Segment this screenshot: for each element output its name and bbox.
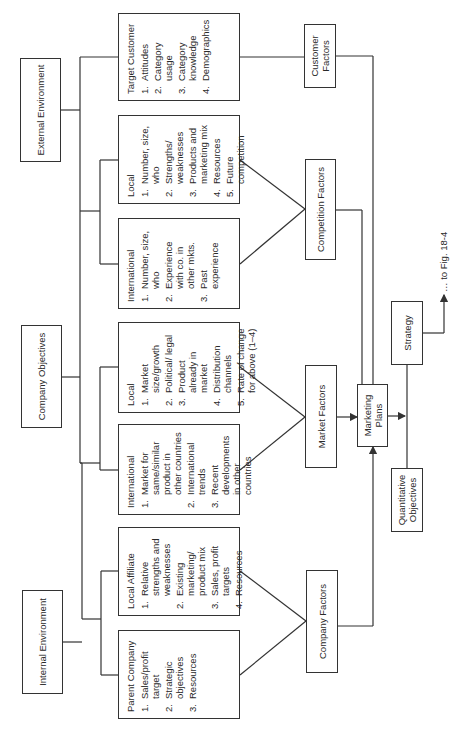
competition-international-box: International 1.Number, size, who 2.Expe… bbox=[118, 218, 240, 309]
market-international-box: International 1.Market for same/similar … bbox=[118, 424, 240, 515]
strategy-box: Strategy bbox=[391, 301, 423, 365]
market-factors-box: Market Factors bbox=[305, 365, 337, 468]
list-item: 1.Sales/profit target bbox=[139, 636, 161, 712]
list-item: 3.Category knowledge bbox=[176, 19, 198, 94]
company-objectives-box: Company Objectives bbox=[21, 325, 62, 428]
diagram-canvas: External Environment Company Objectives … bbox=[0, 0, 466, 753]
competition-local-title: Local bbox=[125, 121, 136, 197]
customer-factors-box: Customer Factors bbox=[304, 24, 336, 88]
competition-factors-label: Competition Factors bbox=[315, 167, 326, 252]
list-item: 1.Market size/growth bbox=[139, 328, 161, 406]
market-international-title: International bbox=[125, 430, 136, 508]
parent-company-title: Parent Company bbox=[125, 636, 136, 712]
list-item: 1.Number, size, who bbox=[139, 224, 161, 302]
market-factors-label: Market Factors bbox=[316, 385, 327, 448]
list-item: 3.Resources bbox=[187, 636, 198, 712]
competition-factors-box: Competition Factors bbox=[305, 159, 336, 260]
local-affiliate-box: Local Affiliate 1.Relative strengths and… bbox=[118, 527, 240, 616]
list-item: 2.Category usage bbox=[152, 19, 174, 94]
list-item: 1.Attitudes bbox=[139, 19, 150, 94]
list-item: 2.Experience with co. in other mkts. bbox=[163, 224, 196, 302]
list-item: 4.Demographics bbox=[200, 19, 211, 94]
competition-local-box: Local 1.Number, size, who 2.Strengths/ w… bbox=[118, 115, 240, 204]
market-local-title: Local bbox=[125, 328, 136, 406]
quantitative-objectives-box: Quantitative Objectives bbox=[391, 468, 423, 532]
list-item: 4.Distribution channels bbox=[211, 328, 233, 406]
market-local-box: Local 1.Market size/growth 2.Political/ … bbox=[118, 322, 240, 413]
list-item: 4.Resources bbox=[211, 121, 222, 197]
list-item: 5.Rate of change for above (1–4) bbox=[235, 328, 257, 406]
target-customer-box: Target Customer 1.Attitudes 2.Category u… bbox=[118, 13, 240, 101]
continuation-note: … to Fig. 18-4 bbox=[438, 232, 449, 292]
company-factors-label: Company Factors bbox=[317, 584, 328, 659]
external-environment-box: External Environment bbox=[20, 58, 61, 162]
company-objectives-label: Company Objectives bbox=[36, 333, 47, 421]
parent-company-box: Parent Company 1.Sales/profit target 2.S… bbox=[118, 630, 240, 719]
list-item: 1.Number, size, who bbox=[139, 121, 161, 197]
competition-international-title: International bbox=[125, 224, 136, 302]
list-item: 2.International trends bbox=[185, 430, 207, 508]
list-item: 1.Market for same/similar product in oth… bbox=[139, 430, 183, 508]
list-item: 2.Strategic objectives bbox=[163, 636, 185, 712]
local-affiliate-title: Local Affiliate bbox=[125, 533, 136, 609]
list-item: 5.Future competition bbox=[224, 121, 246, 197]
list-item: 3.Past experience bbox=[198, 224, 220, 302]
list-item: 2.Political/ legal bbox=[163, 328, 174, 406]
list-item: 3.Product already in market bbox=[176, 328, 209, 406]
list-item: 3.Products and marketing mix bbox=[187, 121, 209, 197]
list-item: 4.Resources bbox=[233, 533, 244, 609]
list-item: 2.Existing marketing/ product mix bbox=[174, 533, 207, 609]
internal-environment-label: Internal Environment bbox=[37, 598, 48, 686]
list-item: 1.Relative strengths and weaknesses bbox=[139, 533, 172, 609]
external-environment-label: External Environment bbox=[35, 65, 46, 156]
list-item: 3.Recent developments in other countries bbox=[209, 430, 253, 508]
list-item: 3.Sales, profit targets bbox=[209, 533, 231, 609]
customer-factors-label: Customer Factors bbox=[309, 31, 331, 81]
quantitative-objectives-label: Quantitative Objectives bbox=[396, 471, 418, 529]
marketing-plans-label: Marketing Plans bbox=[362, 392, 384, 440]
list-item: 2.Strengths/ weaknesses bbox=[163, 121, 185, 197]
internal-environment-box: Internal Environment bbox=[22, 590, 63, 694]
marketing-plans-box: Marketing Plans bbox=[357, 384, 388, 447]
company-factors-box: Company Factors bbox=[306, 570, 338, 673]
target-customer-title: Target Customer bbox=[125, 19, 136, 94]
strategy-label: Strategy bbox=[402, 315, 413, 350]
